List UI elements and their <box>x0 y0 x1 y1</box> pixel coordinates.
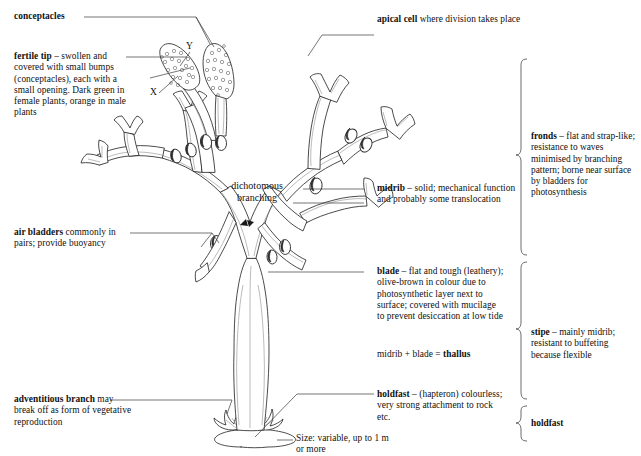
label-blade: blade – flat and tough (leathery); olive… <box>377 266 505 322</box>
thallus-prefix: midrib + blade = <box>377 349 443 359</box>
label-size: Size: variable, up to 1 m or more <box>296 433 426 456</box>
air-bladders-bold: air bladders <box>14 227 63 237</box>
label-apical-cell: apical cell where division takes place <box>377 14 527 25</box>
group-label-holdfast: holdfast <box>531 418 635 429</box>
holdfast-bold: holdfast <box>377 389 410 399</box>
label-holdfast: holdfast – (hapteron) colourless; very s… <box>377 389 507 423</box>
dichotomous-line1: dichotomous <box>218 180 296 192</box>
size-line1: Size: variable, up to 1 m <box>296 433 426 444</box>
label-conceptacles: conceptacles <box>14 11 65 22</box>
label-dichotomous-branching: dichotomous branching <box>218 180 296 204</box>
receptacle-left <box>160 44 200 91</box>
marker-x-label: X <box>150 87 157 97</box>
label-fertile-tip: fertile tip – swollen and covered with s… <box>14 51 130 119</box>
midrib-bold: midrib <box>377 183 405 193</box>
size-line2: or more <box>296 444 426 455</box>
group-brackets <box>516 59 527 441</box>
apical-cell-rest: where division takes place <box>417 14 520 24</box>
group-label-stipe: stipe – mainly midrib; resistant to buff… <box>531 327 635 361</box>
thallus-bold: thallus <box>443 349 470 359</box>
conceptacles-text: conceptacles <box>14 11 65 21</box>
label-midrib: midrib – solid; mechanical function and … <box>377 183 519 206</box>
fronds-bracket <box>516 59 527 255</box>
label-adventitious-branch: adventitious branch may break off as for… <box>14 394 134 428</box>
fronds-bold: fronds <box>531 131 557 141</box>
blade-bold: blade <box>377 266 399 276</box>
marker-y-label: Y <box>186 41 193 51</box>
stipe-bracket <box>516 262 527 399</box>
holdfast-group-bold: holdfast <box>531 418 563 428</box>
fertile-tip-bold: fertile tip <box>14 51 52 61</box>
holdfast-shape <box>215 429 296 448</box>
right-frond-system <box>258 74 415 270</box>
dichotomous-line2: branching <box>218 192 296 204</box>
group-label-fronds: fronds – flat and strap-like; resistance… <box>531 131 635 199</box>
adventitious-bold: adventitious branch <box>14 394 95 404</box>
stipe-bold: stipe <box>531 327 550 337</box>
label-air-bladders: air bladders commonly in pairs; provide … <box>14 227 134 250</box>
apical-cell-bold: apical cell <box>377 14 417 24</box>
holdfast-bracket <box>516 406 527 441</box>
diagram-canvas: conceptacles fertile tip – swollen and c… <box>0 0 641 456</box>
label-thallus-equation: midrib + blade = thallus <box>377 349 527 360</box>
